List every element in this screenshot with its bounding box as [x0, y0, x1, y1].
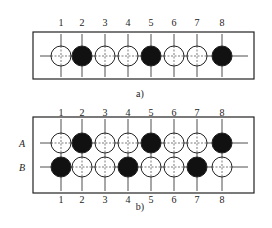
empty-bead-icon [164, 157, 184, 177]
column-label: 8 [220, 17, 225, 28]
filled-bead-icon [51, 157, 71, 177]
column-label: 2 [80, 194, 85, 205]
column-label: 8 [220, 107, 225, 118]
diagram-b-frame [33, 117, 254, 193]
column-label: 4 [126, 194, 131, 205]
column-label: 5 [149, 194, 154, 205]
column-label: 3 [103, 107, 108, 118]
row-label: A [18, 138, 26, 149]
column-label: 3 [103, 194, 108, 205]
row-label: B [19, 162, 25, 173]
empty-bead-icon [164, 133, 184, 153]
column-label: 1 [59, 17, 64, 28]
column-label: 4 [126, 17, 131, 28]
filled-bead-icon [118, 157, 138, 177]
empty-bead-icon [164, 46, 184, 66]
filled-bead-icon [187, 157, 207, 177]
empty-bead-icon [95, 157, 115, 177]
filled-bead-icon [212, 46, 232, 66]
column-label: 6 [172, 17, 177, 28]
diagram-a-column-labels: 12345678 [59, 17, 225, 28]
filled-bead-icon [141, 46, 161, 66]
column-label: 8 [220, 194, 225, 205]
column-label: 1 [59, 194, 64, 205]
column-label: 1 [59, 107, 64, 118]
column-label: 2 [80, 17, 85, 28]
column-label: 7 [195, 107, 200, 118]
filled-bead-icon [212, 133, 232, 153]
filled-bead-icon [141, 133, 161, 153]
empty-bead-icon [95, 46, 115, 66]
column-label: 7 [195, 17, 200, 28]
bead-diagram-figure: 12345678 a) 12345678 12345678 AB b) [0, 0, 272, 228]
diagram-a-grid [40, 34, 248, 77]
empty-bead-icon [118, 46, 138, 66]
diagram-b-row-labels: AB [18, 138, 26, 173]
empty-bead-icon [187, 133, 207, 153]
empty-bead-icon [51, 46, 71, 66]
empty-bead-icon [141, 157, 161, 177]
column-label: 5 [149, 17, 154, 28]
empty-bead-icon [187, 46, 207, 66]
column-label: 3 [103, 17, 108, 28]
column-label: 4 [126, 107, 131, 118]
empty-bead-icon [72, 157, 92, 177]
column-label: 7 [195, 194, 200, 205]
empty-bead-icon [118, 133, 138, 153]
diagram-a-caption: a) [136, 88, 144, 100]
filled-bead-icon [72, 46, 92, 66]
column-label: 2 [80, 107, 85, 118]
empty-bead-icon [51, 133, 71, 153]
column-label: 6 [172, 107, 177, 118]
empty-bead-icon [212, 157, 232, 177]
filled-bead-icon [72, 133, 92, 153]
diagram-b-caption: b) [136, 201, 144, 213]
empty-bead-icon [95, 133, 115, 153]
diagram-b-grid [40, 119, 248, 191]
column-label: 5 [149, 107, 154, 118]
diagram-b-top-column-labels: 12345678 [59, 107, 225, 118]
column-label: 6 [172, 194, 177, 205]
